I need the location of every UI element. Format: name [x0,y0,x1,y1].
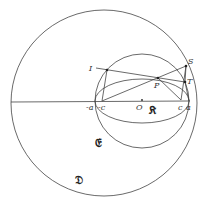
label-K: 𝔎 [148,104,157,117]
line-P-c [158,78,181,100]
label-O: O [136,103,143,112]
label-c: c [178,103,183,112]
major-axis [11,101,190,102]
point-O [141,99,143,101]
label-P: P [153,81,160,90]
label-T: T [187,77,193,86]
point-I [106,69,109,72]
point-T [184,81,187,84]
label-neg-a: -a [86,103,94,112]
line-S-T [185,66,186,82]
point-P [157,77,160,80]
label-E: 𝔈 [95,137,102,150]
label-S: S [188,57,194,66]
label-a: a [186,103,191,112]
line-I-T [96,68,185,82]
label-D: 𝔇 [75,174,83,187]
geometry-diagram: I P S T -a -c O c a 𝔎 𝔈 𝔇 [0,0,203,203]
label-neg-c: -c [98,103,106,112]
label-I: I [88,64,93,73]
point-S [185,65,188,68]
